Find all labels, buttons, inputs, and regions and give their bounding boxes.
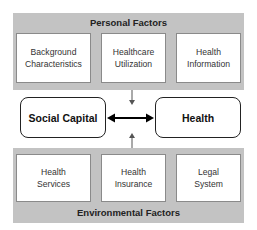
health-insurance-box: HealthInsurance [101, 154, 166, 202]
factor-label: Legal [198, 167, 219, 177]
factor-label: Health [41, 167, 66, 177]
bidirectional-arrow-icon [107, 114, 154, 123]
health-services-box: HealthServices [16, 154, 91, 202]
down-arrow-icon [129, 90, 135, 105]
factor-label: System [194, 179, 223, 189]
environmental-factors-title: Environmental Factors [13, 207, 244, 218]
factor-label: Services [37, 179, 70, 189]
factor-label: Health [121, 167, 146, 177]
legal-system-box: LegalSystem [176, 154, 241, 202]
up-arrow-icon [129, 133, 135, 148]
factor-label: Insurance [115, 179, 153, 189]
